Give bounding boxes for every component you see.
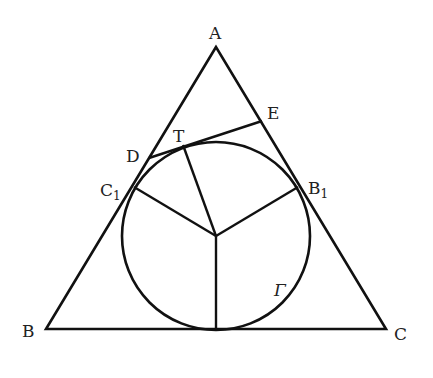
label-b1: B1	[308, 178, 328, 201]
label-b: B	[22, 321, 35, 341]
label-t: T	[173, 126, 185, 146]
geometry-figure: A B C D E T C1 B1 Γ	[0, 0, 433, 378]
label-d: D	[126, 146, 140, 166]
label-c1: C1	[100, 180, 121, 203]
radius-to-t	[183, 145, 216, 236]
radius-to-b1	[216, 187, 298, 236]
label-c: C	[394, 324, 407, 344]
tangent-segment-de	[149, 121, 262, 158]
radius-to-c1	[134, 187, 216, 236]
label-e: E	[267, 103, 279, 123]
label-gamma: Γ	[273, 280, 287, 300]
label-a: A	[208, 23, 222, 43]
